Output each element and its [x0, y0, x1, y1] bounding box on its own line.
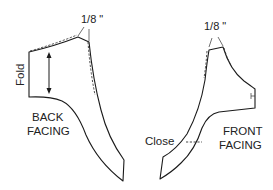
back-facing-outline	[29, 37, 124, 181]
front-leader-right	[218, 37, 223, 46]
front-leader-left	[209, 38, 212, 47]
back-facing-label-line1: BACK	[32, 111, 64, 123]
front-facing-label-line1: FRONT	[223, 125, 263, 137]
fold-label: Fold	[14, 64, 26, 86]
front-facing-piece: 1/8 " Close FRONT FACING	[145, 20, 263, 179]
back-adjusted-edge	[88, 42, 95, 95]
back-leader-left	[78, 27, 84, 36]
fold-arrow-icon	[47, 52, 52, 94]
front-facing-outline	[160, 47, 255, 179]
back-adjusted-neckline	[30, 35, 77, 51]
close-label: Close	[145, 135, 174, 147]
back-facing-piece: 1/8 " Fold BACK FACING	[14, 13, 124, 181]
back-facing-label-line2: FACING	[27, 125, 70, 137]
front-notch-mark	[251, 93, 255, 99]
pattern-diagram: 1/8 " Fold BACK FACING 1/8 " Close FRONT…	[0, 0, 273, 190]
back-adjustment-label: 1/8 "	[81, 13, 103, 25]
front-adjusted-right-edge	[224, 48, 231, 66]
front-adjustment-label: 1/8 "	[204, 20, 226, 32]
front-facing-label-line2: FACING	[219, 139, 262, 151]
